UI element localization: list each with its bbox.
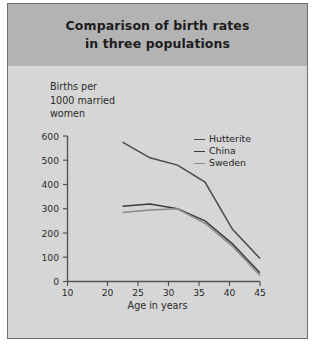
y-tick-300: 300 [41, 203, 59, 214]
x-tick-30: 30 [163, 287, 175, 298]
legend-swatch-icon-hutterite [194, 139, 205, 140]
y-tick-100: 100 [41, 252, 59, 263]
chart-body: Births per 1000 married women 600 500 40 [8, 70, 307, 339]
legend-label-sweden: Sweden [209, 157, 246, 169]
legend-item-china: China [194, 145, 251, 157]
x-axis-tick-labels: 10 20 25 30 35 40 45 [62, 287, 266, 298]
y-axis-tick-labels: 600 500 400 300 200 100 0 [41, 131, 59, 288]
figure-title-band: Comparison of birth rates in three popul… [8, 4, 307, 66]
legend-swatch-icon-china [194, 151, 205, 152]
series-line-sweden [123, 209, 261, 276]
legend-label-hutterite: Hutterite [209, 133, 251, 145]
x-tick-35: 35 [193, 287, 205, 298]
page-title: Comparison of birth rates in three popul… [66, 17, 250, 53]
line-chart-plot: 600 500 400 300 200 100 0 10 20 [8, 70, 308, 339]
title-line-1: Comparison of birth rates [66, 17, 250, 35]
x-tick-25: 25 [132, 287, 144, 298]
x-tick-40: 40 [224, 287, 236, 298]
y-tick-0: 0 [53, 276, 59, 287]
y-tick-600: 600 [41, 131, 59, 142]
x-tick-10: 10 [62, 287, 74, 298]
figure-panel: Comparison of birth rates in three popul… [7, 3, 308, 339]
legend-swatch-icon-sweden [194, 163, 205, 164]
series-line-china [123, 204, 261, 273]
y-tick-400: 400 [41, 179, 59, 190]
x-axis-title: Age in years [8, 300, 307, 311]
y-tick-200: 200 [41, 228, 59, 239]
legend-item-hutterite: Hutterite [194, 133, 251, 145]
title-line-2: in three populations [66, 35, 250, 53]
chart-legend: Hutterite China Sweden [194, 133, 251, 169]
y-tick-500: 500 [41, 155, 59, 166]
x-tick-45: 45 [254, 287, 266, 298]
x-tick-20: 20 [102, 287, 114, 298]
legend-label-china: China [209, 145, 236, 157]
legend-item-sweden: Sweden [194, 157, 251, 169]
